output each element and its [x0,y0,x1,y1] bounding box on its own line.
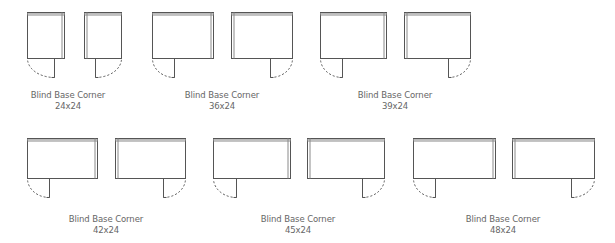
door-swing-arc [214,180,237,198]
cabinet-outline [214,139,291,179]
door-swing-arc [28,60,55,78]
door-swing-arc [321,60,343,78]
cabinet-left [414,139,496,198]
cabinet-left [153,13,214,78]
cabinet-left [214,139,291,198]
cabinet-group-39x24 [321,13,471,78]
cabinet-label: Blind Base Corner48x24 [453,214,553,236]
cabinet-label: Blind Base Corner36x24 [172,90,272,112]
cabinet-size: 39x24 [345,101,445,112]
cabinet-outline [85,13,122,59]
cabinet-outline [405,13,471,59]
cabinet-outline [308,139,385,179]
cabinet-size: 36x24 [172,101,272,112]
cabinet-left [28,13,65,78]
door-swing-arc [414,180,436,198]
cabinet-group-36x24 [153,13,293,78]
cabinet-size: 48x24 [453,225,553,236]
door-swing-arc [96,60,122,78]
cabinet-group-24x24 [28,13,122,78]
cabinet-right [116,139,186,198]
cabinet-outline [232,13,293,59]
cabinet-name: Blind Base Corner [453,214,553,225]
cabinet-size: 45x24 [248,225,348,236]
cabinet-group-42x24 [28,139,186,198]
door-swing-arc [28,180,50,198]
cabinet-size: 42x24 [56,225,156,236]
diagram-canvas [0,0,615,243]
cabinet-outline [414,139,496,179]
cabinet-right [308,139,385,198]
cabinet-group-48x24 [414,139,595,198]
cabinet-label: Blind Base Corner42x24 [56,214,156,236]
cabinet-label: Blind Base Corner39x24 [345,90,445,112]
door-swing-arc [449,60,471,78]
cabinet-right [513,139,595,198]
cabinet-label: Blind Base Corner45x24 [248,214,348,236]
door-swing-arc [271,60,293,78]
cabinet-right [232,13,293,78]
door-swing-arc [153,60,175,78]
cabinet-left [321,13,387,78]
cabinet-outline [116,139,186,179]
cabinet-name: Blind Base Corner [248,214,348,225]
cabinet-name: Blind Base Corner [345,90,445,101]
cabinet-group-45x24 [214,139,385,198]
cabinet-size: 24x24 [18,101,118,112]
cabinet-outline [28,139,98,179]
door-swing-arc [572,180,595,198]
cabinet-name: Blind Base Corner [56,214,156,225]
cabinet-left [28,139,98,198]
cabinet-outline [153,13,214,59]
cabinet-outline [28,13,65,59]
cabinet-name: Blind Base Corner [18,90,118,101]
cabinet-name: Blind Base Corner [172,90,272,101]
cabinet-outline [513,139,595,179]
cabinet-label: Blind Base Corner24x24 [18,90,118,112]
cabinet-right [405,13,471,78]
door-swing-arc [164,180,186,198]
cabinet-right [85,13,122,78]
door-swing-arc [363,180,385,198]
cabinet-outline [321,13,387,59]
